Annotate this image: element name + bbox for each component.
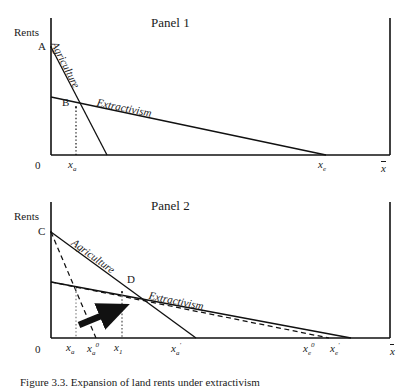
panel-2-tick-x-a: xa (66, 342, 74, 356)
panel-1-axes (51, 18, 390, 155)
panel-1-point-B-label: B (62, 97, 69, 108)
panel-1-tick-x-e: xe (318, 159, 326, 173)
panel-2-point-D-marker (121, 291, 123, 293)
panel-1-point-B-marker (75, 106, 77, 108)
panel-1-tick-x-a: xa (68, 159, 76, 173)
panel-1-origin-label: 0 (35, 160, 41, 171)
panel-2-point-D-label: D (127, 274, 135, 285)
figure-caption: Figure 3.3. Expansion of land rents unde… (20, 377, 260, 388)
panel-2-title: Panel 2 (151, 199, 190, 212)
panel-2-tick-x-a-prime: xa′ (171, 342, 181, 357)
shift-arrow-icon (79, 311, 113, 325)
panel-2-tick-x-e-prime: xe′ (330, 342, 340, 357)
panel-2-tick-x-a-0: xa0 (87, 342, 99, 357)
panel-1-point-A-label: A (38, 41, 46, 52)
panel-2-tick-x-e-0: xe0 (303, 342, 315, 357)
panel-2-point-C-label: C (38, 226, 45, 237)
panel-2-tick-x-1: x1 (114, 342, 122, 356)
panel-2-x-axis-label: x (390, 346, 395, 357)
panel-2-y-axis-label: Rents (14, 211, 39, 222)
panel-1-title: Panel 1 (151, 16, 190, 29)
panel-2-point-C-marker (50, 231, 52, 233)
panel-1-x-axis-label: x (381, 163, 386, 174)
panel-2-origin-label: 0 (35, 344, 41, 355)
panel-1-y-axis-label: Rents (14, 27, 39, 38)
